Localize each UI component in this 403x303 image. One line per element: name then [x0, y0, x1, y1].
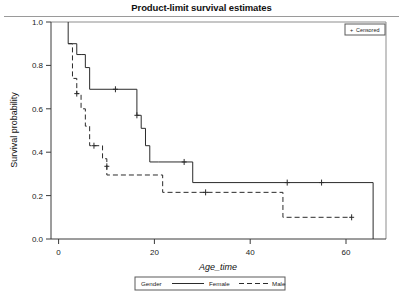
censor-marks-male: [74, 91, 354, 221]
y-tick-label-1.0: 1.0: [32, 18, 44, 27]
survival-curve-male: [68, 44, 351, 218]
plot-canvas: 1.0 0.8 0.6 0.4 0.2 0.0 Survival probabi…: [0, 0, 403, 303]
y-axis: 1.0 0.8 0.6 0.4 0.2 0.0 Survival probabi…: [9, 18, 51, 244]
y-tick-label-0.8: 0.8: [32, 61, 44, 70]
x-tick-label-20: 20: [150, 248, 159, 257]
series-group: [68, 22, 373, 239]
x-tick-label-0: 0: [56, 248, 61, 257]
gender-legend-label-female: Female: [209, 280, 230, 287]
x-tick-label-40: 40: [246, 248, 255, 257]
x-tick-label-60: 60: [342, 248, 351, 257]
y-axis-title: Survival probability: [9, 92, 19, 168]
censor-marks-female: [113, 86, 324, 185]
y-tick-label-0.0: 0.0: [32, 235, 44, 244]
x-axis-title: Age_time: [198, 262, 237, 272]
plot-frame: [51, 22, 386, 239]
x-axis: 0 20 40 60 Age_time: [56, 239, 351, 272]
gender-legend: Gender Female Male: [135, 277, 286, 290]
gender-legend-label-male: Male: [272, 280, 286, 287]
censored-legend-label: Censored: [356, 27, 379, 33]
y-tick-label-0.6: 0.6: [32, 105, 44, 114]
survival-curve-female: [68, 22, 373, 239]
gender-legend-title: Gender: [141, 280, 162, 287]
survival-chart-figure: Product-limit survival estimates 1.0 0.8…: [0, 0, 403, 303]
censored-legend: + Censored: [345, 24, 385, 35]
y-tick-label-0.4: 0.4: [32, 148, 44, 157]
y-tick-label-0.2: 0.2: [32, 192, 44, 201]
censored-legend-marker: +: [350, 27, 353, 33]
